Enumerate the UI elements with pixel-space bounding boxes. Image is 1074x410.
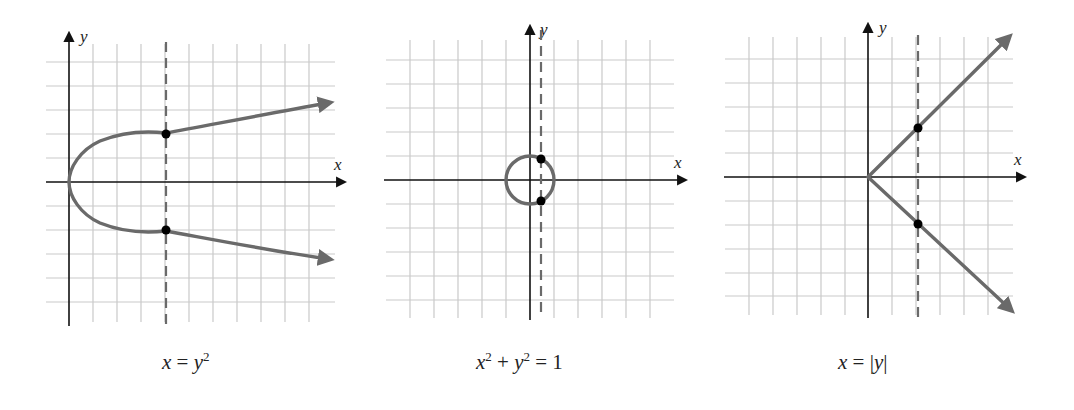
panel-absolute-value: y x xyxy=(724,18,1025,318)
caption-var-x: x xyxy=(162,350,171,374)
intersection-point-upper xyxy=(914,124,923,133)
intersection-point-lower xyxy=(537,197,546,206)
figure-canvas: y x xyxy=(0,0,1074,410)
panel-parabola: y x xyxy=(45,27,345,326)
y-axis-label: y xyxy=(78,27,88,46)
caption-parabola: x = y2 xyxy=(162,350,210,375)
caption-abs-bar-right: | xyxy=(883,350,887,374)
caption-var-x: x xyxy=(476,350,485,374)
caption-var-y: y xyxy=(514,350,523,374)
parabola-curve-lower xyxy=(69,182,328,259)
caption-plus: + xyxy=(492,350,514,374)
x-axis-label: x xyxy=(1013,150,1022,169)
x-axis-label: x xyxy=(333,155,342,174)
caption-operator: = xyxy=(171,350,193,374)
x-axis-label: x xyxy=(673,153,682,172)
intersection-point-lower xyxy=(162,226,171,235)
ray-lower xyxy=(868,177,1010,309)
parabola-curve xyxy=(69,103,328,182)
y-axis-label: y xyxy=(538,20,548,39)
caption-exponent: 2 xyxy=(203,349,210,364)
caption-equals-one: = 1 xyxy=(530,350,563,374)
y-axis-label: y xyxy=(877,18,887,37)
caption-var-y: y xyxy=(874,350,883,374)
intersection-point-lower xyxy=(914,220,923,229)
caption-circle: x2 + y2 = 1 xyxy=(476,350,563,375)
grid-lines xyxy=(45,44,335,322)
caption-var-x: x xyxy=(838,350,847,374)
panel-circle: y x xyxy=(384,20,686,320)
intersection-point-upper xyxy=(537,155,546,164)
caption-operator: = xyxy=(847,350,869,374)
caption-absolute-value: x = |y| xyxy=(838,350,887,375)
caption-var-y: y xyxy=(194,350,203,374)
intersection-point-upper xyxy=(162,130,171,139)
